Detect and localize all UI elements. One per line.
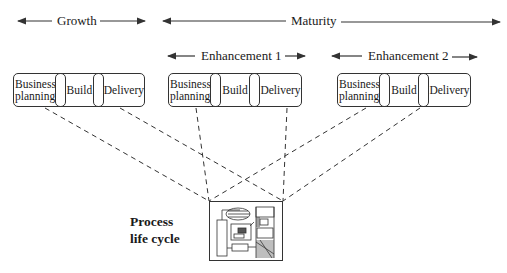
phase-maturity-label: Maturity <box>288 14 340 28</box>
stage-text: Business <box>170 78 211 90</box>
stage-business-planning: Businessplanning <box>14 74 55 106</box>
stage-group-enhancement-2: Businessplanning Build Delivery <box>337 73 471 107</box>
stage-separator <box>210 73 221 107</box>
phase-enhancement-1-label: Enhancement 1 <box>198 49 285 63</box>
stage-text: Business <box>339 78 380 90</box>
stage-text: planning <box>170 90 210 102</box>
stage-group-enhancement-1: Businessplanning Build Delivery <box>168 73 302 107</box>
stage-text: planning <box>15 90 55 102</box>
stage-text: planning <box>339 90 379 102</box>
stage-delivery: Delivery <box>260 74 301 106</box>
stage-build: Build <box>66 74 93 106</box>
stage-separator <box>93 73 104 107</box>
phase-enhancement-2-label: Enhancement 2 <box>365 49 452 63</box>
process-life-cycle-label: Process life cycle <box>130 213 180 247</box>
stage-build: Build <box>390 74 418 106</box>
process-label-line2: life cycle <box>130 231 180 246</box>
stage-separator <box>379 73 390 107</box>
stage-separator <box>418 73 429 107</box>
phase-growth-label: Growth <box>54 14 100 28</box>
process-lifecycle-schematic-icon <box>210 202 282 260</box>
process-label-line1: Process <box>130 214 173 229</box>
stage-separator <box>55 73 66 107</box>
stage-delivery: Delivery <box>429 74 470 106</box>
stage-delivery: Delivery <box>104 74 144 106</box>
stage-group-growth: Businessplanning Build Delivery <box>13 73 145 107</box>
stage-build: Build <box>221 74 249 106</box>
stage-business-planning: Businessplanning <box>169 74 210 106</box>
stage-business-planning: Businessplanning <box>338 74 379 106</box>
stage-text: Business <box>15 78 56 90</box>
process-life-cycle-box <box>209 201 283 261</box>
stage-separator <box>249 73 260 107</box>
